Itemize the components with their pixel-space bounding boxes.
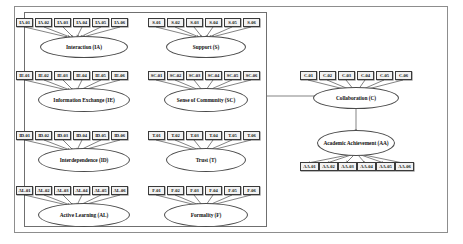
indicator-box[interactable]: S-05 (224, 18, 241, 27)
indicator-box[interactable]: ID-01 (16, 131, 33, 140)
indicator-box[interactable]: T-04 (205, 131, 222, 140)
indicator-box[interactable]: F-04 (205, 186, 222, 195)
indicator-box[interactable]: SC-04 (205, 71, 222, 80)
construct-ellipse-ID[interactable]: Interdependence (ID) (38, 148, 130, 172)
indicator-box[interactable]: AA-01 (300, 162, 319, 171)
indicator-box[interactable]: SC-05 (224, 71, 241, 80)
indicator-box[interactable]: C-01 (300, 71, 317, 80)
indicator-box[interactable]: F-02 (167, 186, 184, 195)
indicator-box[interactable]: T-01 (148, 131, 165, 140)
indicator-box[interactable]: IA-03 (54, 18, 71, 27)
indicator-box[interactable]: S-04 (205, 18, 222, 27)
indicator-box[interactable]: IA-02 (35, 18, 52, 27)
indicator-box[interactable]: ID-03 (54, 131, 71, 140)
indicator-box[interactable]: AL-04 (73, 186, 90, 195)
indicator-box[interactable]: F-05 (224, 186, 241, 195)
construct-ellipse-F[interactable]: Formality (F) (164, 203, 248, 227)
indicator-box[interactable]: C-03 (338, 71, 355, 80)
indicator-box[interactable]: T-02 (167, 131, 184, 140)
indicator-box[interactable]: IE-04 (73, 71, 90, 80)
indicator-box[interactable]: ID-06 (111, 131, 128, 140)
indicator-box[interactable]: AL-05 (92, 186, 109, 195)
indicator-box[interactable]: AA-03 (338, 162, 357, 171)
indicator-box[interactable]: IE-06 (111, 71, 128, 80)
indicator-box[interactable]: ID-02 (35, 131, 52, 140)
indicator-box[interactable]: AL-01 (16, 186, 33, 195)
construct-ellipse-IE[interactable]: Information Exchange (IE) (38, 88, 130, 112)
construct-ellipse-SC[interactable]: Sense of Community (SC) (164, 88, 248, 112)
construct-ellipse-T[interactable]: Trust (T) (166, 148, 246, 172)
indicator-box[interactable]: SC-03 (186, 71, 203, 80)
indicator-box[interactable]: SC-06 (243, 71, 260, 80)
indicator-box[interactable]: T-06 (243, 131, 260, 140)
indicator-box[interactable]: AL-02 (35, 186, 52, 195)
indicator-box[interactable]: IA-04 (73, 18, 90, 27)
indicator-box[interactable]: S-02 (167, 18, 184, 27)
indicator-box[interactable]: F-06 (243, 186, 260, 195)
indicator-box[interactable]: IE-05 (92, 71, 109, 80)
construct-ellipse-AA[interactable]: Academic Achievement (AA) (317, 130, 395, 156)
indicator-box[interactable]: IE-02 (35, 71, 52, 80)
indicator-box[interactable]: IA-05 (92, 18, 109, 27)
indicator-box[interactable]: AA-02 (319, 162, 338, 171)
indicator-box[interactable]: C-02 (319, 71, 336, 80)
indicator-box[interactable]: ID-04 (73, 131, 90, 140)
indicator-box[interactable]: ID-05 (92, 131, 109, 140)
indicator-box[interactable]: C-06 (395, 71, 412, 80)
indicator-box[interactable]: AL-03 (54, 186, 71, 195)
indicator-box[interactable]: AA-04 (357, 162, 376, 171)
indicator-box[interactable]: F-01 (148, 186, 165, 195)
indicator-box[interactable]: T-03 (186, 131, 203, 140)
indicator-box[interactable]: F-03 (186, 186, 203, 195)
indicator-box[interactable]: T-05 (224, 131, 241, 140)
indicator-box[interactable]: S-03 (186, 18, 203, 27)
indicator-box[interactable]: IA-01 (16, 18, 33, 27)
indicator-box[interactable]: IE-01 (16, 71, 33, 80)
indicator-box[interactable]: C-05 (376, 71, 393, 80)
indicator-box[interactable]: S-01 (148, 18, 165, 27)
indicator-box[interactable]: AA-05 (376, 162, 395, 171)
indicator-box[interactable]: IE-03 (54, 71, 71, 80)
construct-ellipse-S[interactable]: Support (S) (166, 36, 246, 58)
indicator-box[interactable]: IA-06 (111, 18, 128, 27)
diagram-canvas: IA-01 IA-02 IA-03 IA-04 IA-05 IA-06 Inte… (0, 0, 463, 244)
indicator-box[interactable]: SC-01 (148, 71, 165, 80)
indicator-box[interactable]: C-04 (357, 71, 374, 80)
indicator-box[interactable]: AL-06 (111, 186, 128, 195)
indicator-box[interactable]: AA-06 (395, 162, 414, 171)
construct-ellipse-C[interactable]: Collaboration (C) (313, 87, 399, 109)
construct-ellipse-IA[interactable]: Interaction (IA) (40, 36, 128, 58)
indicator-box[interactable]: SC-02 (167, 71, 184, 80)
construct-ellipse-AL[interactable]: Active Learning (AL) (38, 203, 130, 227)
indicator-box[interactable]: S-06 (243, 18, 260, 27)
